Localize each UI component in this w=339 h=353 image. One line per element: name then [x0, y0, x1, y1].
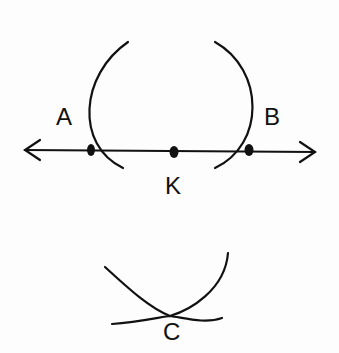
- label-a: A: [56, 105, 72, 129]
- label-k: K: [165, 174, 181, 198]
- left-arc: [89, 42, 128, 168]
- point-k: [170, 146, 179, 158]
- label-b: B: [264, 105, 280, 129]
- point-b: [245, 144, 254, 156]
- label-c: C: [163, 320, 180, 344]
- point-a: [87, 144, 95, 156]
- lower-left-arc: [105, 253, 228, 316]
- construction-diagram: A B K C: [0, 0, 339, 353]
